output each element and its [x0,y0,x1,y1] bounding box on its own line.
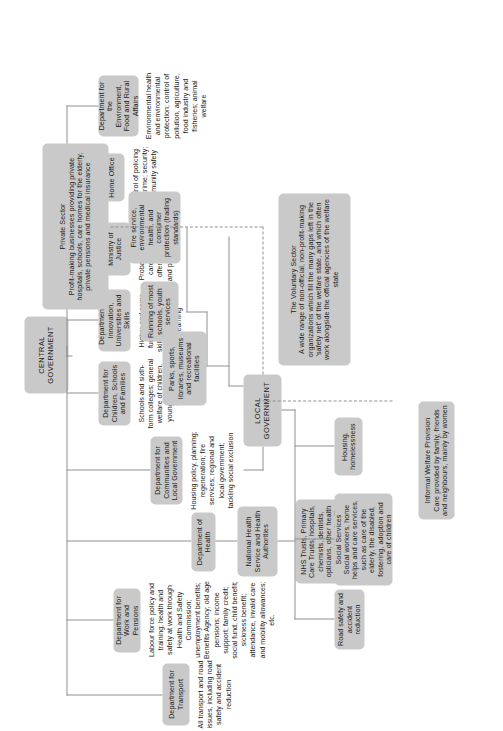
node-parks-libraries-recreation[interactable]: Parks, sports, libraries, museums and re… [162,331,206,405]
schools-youth-label: Running of most schools, youth services [146,284,171,338]
nhs-to-desc-stem [277,540,295,541]
lg-spine-upper-3 [186,227,187,312]
voluntary-sector-title: The Voluntary Sector [289,196,297,362]
node-central-government[interactable]: CENTRAL GOVERNMENT [24,316,68,393]
diagram-stage: CENTRAL GOVERNMENT Department for Transp… [0,0,503,731]
node-department-children-schools-families[interactable]: Department for Children, Schools and Fam… [98,361,130,425]
desc-department-environment-food-rural-affairs: Environmental health and environmental p… [144,70,209,141]
parks-libraries-label: Parks, sports, libraries, museums and re… [167,334,200,402]
social-services-title: Social Services [334,496,342,582]
node-department-environment-food-rural-affairs[interactable]: Department for the Environment, Food and… [98,75,138,136]
dept-transport-label: Department for Transport [167,666,184,722]
lg-stem-social-services [294,538,334,539]
node-department-communities-local-government[interactable]: Department for Communities and Local Gov… [150,436,182,504]
local-government-label: LOCAL GOVERNMENT [253,377,270,443]
lg-spine-lower [294,409,295,619]
social-services-desc: Social workers, home helps and care serv… [342,496,392,582]
node-housing-homelessness[interactable]: Housing, homelessness [334,417,362,475]
clg-to-lg-link-v [243,469,263,470]
cg-stem-4 [66,469,150,470]
dashed-link-informal [262,400,392,401]
cg-stem-5 [66,392,98,393]
lg-stem-parks [206,365,229,366]
desc-department-work-pensions: Labour force policy and training; health… [147,579,276,660]
cg-stem-2 [66,619,113,620]
desc-department-transport: All transport and road issues, including… [196,659,233,729]
lg-stem-up [228,385,243,386]
dept-dcsf-label: Department for Children, Schools and Fam… [101,364,126,422]
housing-homelessness-label: Housing, homelessness [340,420,357,472]
node-voluntary-sector[interactable]: The Voluntary Sector A wide range of non… [278,193,350,365]
dashed-link-lg-to-sectors [262,226,263,374]
lg-stem-housing [294,445,334,446]
lg-stem-road-safety [294,618,334,619]
node-department-health[interactable]: Department of Health [191,512,215,571]
node-social-services[interactable]: Social Services Social workers, home hel… [334,493,392,585]
node-department-transport[interactable]: Department for Transport [162,663,189,725]
road-safety-label: Road safety and accident reduction [336,592,361,646]
dashed-link-private [110,226,262,227]
lg-spine-upper [228,236,229,386]
informal-welfare-title: Informal Welfare Provision [423,404,431,516]
lg-stem-down [281,409,295,410]
cg-stem-1 [66,694,162,695]
informal-welfare-label: Informal Welfare Provision Care provided… [423,404,448,516]
node-informal-welfare-provision[interactable]: Informal Welfare Provision Care provided… [418,401,454,519]
nhs-label: National Health Service and Health Autho… [244,509,269,573]
informal-welfare-desc: Care provided by family, friends and nei… [432,404,449,516]
voluntary-sector-desc: A wide range of non-official, non-profit… [297,196,339,362]
dept-health-label: Department of Health [195,515,212,568]
dept-defra-label: Department for the Environment, Food and… [97,78,139,133]
lg-stem-schools [186,311,207,312]
cg-stem-3 [66,540,191,541]
cg-stem-6 [66,319,98,320]
social-services-label: Social Services Social workers, home hel… [334,496,393,582]
clg-to-lg-link-h [262,446,263,470]
cg-stem-9 [66,105,98,106]
node-private-sector[interactable]: Private Sector Profit-making businesses … [42,143,108,309]
cg-spine [66,345,67,695]
private-sector-label: Private Sector Profit-making businesses … [58,146,91,306]
node-nhs-health-authorities[interactable]: National Health Service and Health Autho… [237,506,277,576]
node-department-work-pensions[interactable]: Department for Work and Pensions [113,588,140,652]
node-schools-youth-services[interactable]: Running of most schools, youth services [140,281,178,341]
voluntary-sector-label: The Voluntary Sector A wide range of non… [289,196,339,362]
diagram-frame: CENTRAL GOVERNMENT Department for Transp… [0,0,503,731]
dept-work-pensions-label: Department for Work and Pensions [114,591,139,649]
dept-clg-label: Department for Communities and Local Gov… [153,439,178,501]
private-sector-desc: Profit-making businesses providing priva… [67,146,92,306]
health-to-nhs-stem [215,540,237,541]
private-sector-title: Private Sector [58,146,66,306]
node-road-safety[interactable]: Road safety and accident reduction [334,589,364,649]
desc-department-communities-local-government: Housing policy, planning; regeneration; … [189,430,235,510]
central-government-label: CENTRAL GOVERNMENT [37,319,54,390]
node-local-government[interactable]: LOCAL GOVERNMENT [243,374,281,446]
